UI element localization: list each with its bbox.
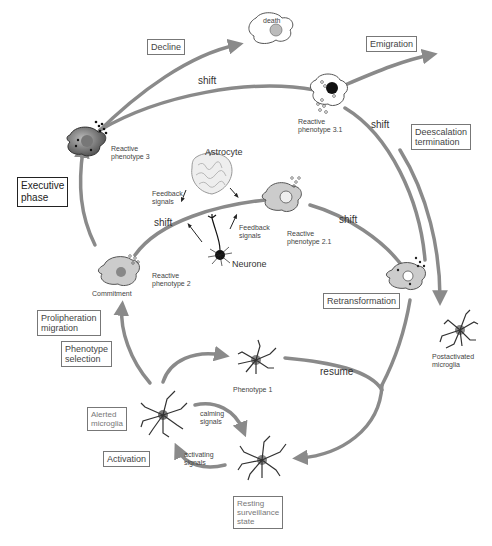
- resume-label: resume: [320, 366, 353, 377]
- emigration-box: Emigration: [366, 36, 417, 52]
- reactive-phenotype-3-label: Reactive phenotype 3: [111, 145, 150, 161]
- reactive-phenotype-3-cell-icon: [67, 121, 107, 156]
- executive-phase-box: Executive phase: [17, 177, 68, 207]
- phenotype-selection-box: Phenotype selection: [61, 341, 112, 367]
- reactive-phenotype-2-cell-icon: [98, 255, 139, 286]
- flow-arrows: [81, 45, 440, 467]
- astrocyte-label: Astrocyte: [205, 147, 243, 157]
- activation-box: Activation: [103, 451, 150, 467]
- activating-signals-label: activating signals: [184, 451, 214, 467]
- shift-mid-left-label: shift: [154, 217, 172, 228]
- reactive-phenotype-3-1-cell-icon: [310, 74, 347, 113]
- shift-mid-right-label: shift: [339, 214, 357, 225]
- decline-box: Decline: [147, 39, 185, 55]
- postactivated-microglia-label: Postactivated microglia: [432, 353, 474, 369]
- commitment-label: Commitment: [92, 290, 132, 298]
- phenotype-1-microglia-icon: [238, 340, 276, 374]
- reactive-phenotype-2-1-cell-icon: [262, 177, 301, 212]
- alerted-microglia-icon: [141, 391, 187, 437]
- feedback-signals-left-label: Feedback signals: [152, 190, 183, 206]
- retransformation-cell-icon: [386, 257, 425, 290]
- phenotype-1-label: Phenotype 1: [233, 386, 272, 394]
- neurone-label: Neurone: [232, 259, 267, 269]
- death-label: death: [263, 17, 281, 25]
- reactive-phenotype-2-label: Reactive phenotype 2: [152, 272, 191, 288]
- shift-right-top-label: shift: [371, 119, 389, 130]
- feedback-arrows: [182, 188, 237, 242]
- reactive-phenotype-3-1-label: Reactive phenotype 3.1: [298, 118, 342, 134]
- proliferation-migration-box: Prolipheration migration: [37, 310, 101, 336]
- neurone-icon: [208, 214, 232, 266]
- resting-surveillance-box: Resting surveillance state: [233, 496, 283, 529]
- deescalation-termination-box: Deescalation termination: [411, 124, 471, 150]
- retransformation-box: Retransformation: [323, 293, 400, 309]
- postactivated-microglia-icon: [440, 310, 478, 348]
- calming-signals-label: calming signals: [200, 410, 224, 426]
- resting-microglia-icon: [238, 436, 286, 480]
- diagram-canvas: [0, 0, 492, 546]
- alerted-microglia-box: Alerted microglia: [87, 407, 127, 431]
- feedback-signals-right-label: Feedback signals: [239, 224, 270, 240]
- shift-top-label: shift: [198, 75, 216, 86]
- reactive-phenotype-2-1-label: Reactive phenotype 2.1: [287, 230, 331, 246]
